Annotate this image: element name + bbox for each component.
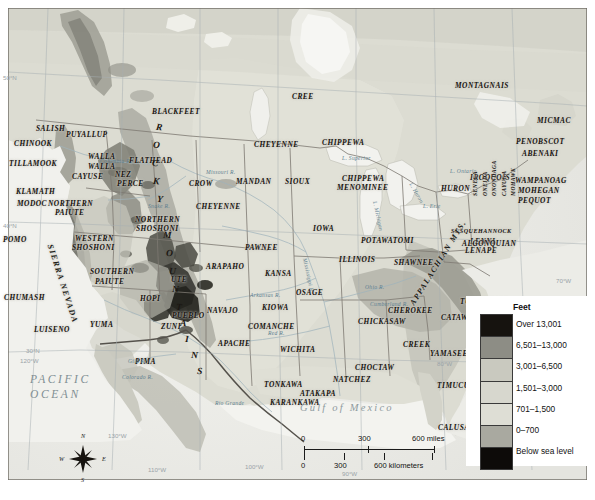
tribe-label: TILLAMOOK <box>9 159 57 168</box>
tribe-label: KLAMATH <box>16 187 55 196</box>
graticule-label: 80°W <box>437 360 452 367</box>
water-feature-label: Columbia R. <box>100 158 132 164</box>
compass-east-label: E <box>102 455 106 462</box>
tribe-label: WAMPANOAG <box>515 176 567 185</box>
scale-tick-km-600 <box>384 453 385 460</box>
elevation-legend: Feet Over 13,0016,501–13,0003,001–6,5001… <box>466 296 595 466</box>
scale-tick-km-0 <box>304 453 305 460</box>
graticule-label: 100°W <box>245 463 264 470</box>
water-feature-label: Ohio R. <box>365 284 385 290</box>
tribe-label: SALISH <box>36 124 65 133</box>
tribe-label: PAWNEE <box>245 243 278 252</box>
tribe-label: CHINOOK <box>14 139 52 148</box>
tribe-label: UTE <box>171 275 187 284</box>
rocky-mountains-letter: N <box>172 284 179 294</box>
rocky-mountains-letter: R <box>155 122 162 133</box>
tribe-label: CREE <box>292 92 314 101</box>
compass-north-label: N <box>81 432 85 439</box>
iroquois-nation-label: CAYUGA <box>501 171 507 196</box>
tribe-label: PENOBSCOT <box>516 137 564 146</box>
legend-swatch <box>481 359 512 381</box>
tribe-label: ILLINOIS <box>339 255 375 264</box>
legend-entry-label: Below sea level <box>516 441 574 462</box>
tribe-label: CHIPPEWA <box>322 138 364 147</box>
tribe-label: LUISENO <box>34 325 70 334</box>
rocky-mountains-letter: M <box>163 230 172 240</box>
ocean-label: PACIFICOCEAN <box>30 372 91 402</box>
scale-label-km-0: 0 <box>301 461 305 470</box>
tribe-label: PEQUOT <box>518 196 551 205</box>
legend-entry-label: 0–700 <box>516 420 574 441</box>
tribe-label: CHUMASH <box>4 293 45 302</box>
scale-bar-line <box>304 446 435 453</box>
rocky-mountains-letter: K <box>152 176 159 187</box>
tribe-label: MODOC <box>17 199 47 208</box>
tribe-label: WESTERN <box>75 234 114 243</box>
legend-entry-label: 701–1,500 <box>516 399 574 420</box>
water-feature-label: Arkansas R. <box>250 292 280 298</box>
iroquois-nation-label: SENECA <box>472 171 478 196</box>
tribe-label: PAIUTE <box>55 208 85 217</box>
tribe-label: CHOCTAW <box>355 363 394 372</box>
tribe-label: KANSA <box>265 269 292 278</box>
tribe-label: PAIUTE <box>95 277 125 286</box>
tribe-label: ZUNI <box>161 322 181 331</box>
tribe-label: MANDAN <box>236 177 271 186</box>
graticule-label: 110°W <box>148 466 166 473</box>
iroquois-nation-label: MOHAWK <box>510 168 516 196</box>
legend-swatch <box>481 426 512 448</box>
rocky-mountains-letter: S <box>197 366 203 376</box>
tribe-label: KIOWA <box>262 303 289 312</box>
graticule-label: 70°W <box>556 277 571 284</box>
compass-west-label: W <box>59 455 64 462</box>
rocky-mountains-letter: N <box>191 350 198 360</box>
tribe-label: POTAWATOMI <box>361 236 414 245</box>
tribe-label: NATCHEZ <box>333 375 371 384</box>
tribe-label: SHOSHONI <box>136 224 179 233</box>
scale-bar: 0 300 600 miles 0 300 600 kilometers <box>300 432 460 472</box>
tribe-label: PERCE <box>117 179 144 188</box>
scale-label-miles-300: 300 <box>358 434 371 443</box>
iroquois-nation-label: ONONDAGA <box>491 160 497 196</box>
tribe-label: NORTHERN <box>48 199 93 208</box>
tribe-label: CROW <box>189 179 213 188</box>
ocean-label-line1: PACIFIC <box>30 372 91 387</box>
gulf-of-mexico-label: Gulf of Mexico <box>300 402 394 413</box>
rocky-mountains-letter: C <box>151 158 158 169</box>
tribe-label: NAVAJO <box>207 306 238 315</box>
tribe-label: WICHITA <box>280 345 316 354</box>
tribe-label: IOWA <box>313 224 334 233</box>
graticule-label: 130°W <box>108 432 127 439</box>
tribe-label: CALUSA <box>438 423 470 432</box>
tribe-label: SIOUX <box>285 177 310 186</box>
water-feature-label: Missouri R. <box>206 169 235 175</box>
scale-label-miles-600: 600 miles <box>412 434 445 443</box>
scale-label-km-600: 600 kilometers <box>374 461 423 470</box>
water-feature-label: Cumberland R. <box>370 301 408 307</box>
tribe-label: FLATHEAD <box>129 156 172 165</box>
tribe-label: PUEBLO <box>172 311 205 320</box>
rocky-mountains-letter: Y <box>156 194 163 205</box>
tribe-label: HOPI <box>140 294 160 303</box>
rocky-mountains-letter: O <box>152 140 160 151</box>
tribe-label: MOHEGAN <box>518 186 560 195</box>
tribe-label: CREEK <box>403 340 430 349</box>
graticule-label: 120°W <box>20 357 39 364</box>
tribe-label: MONTAGNAIS <box>455 81 509 90</box>
water-feature-label: Rio Grande <box>215 400 244 406</box>
scale-tick-km-300 <box>344 453 345 460</box>
tribe-label: NEZ <box>115 170 131 179</box>
legend-swatch <box>481 315 512 337</box>
iroquois-nation-label: ONEIDA <box>482 171 488 196</box>
tribe-label: MICMAC <box>537 116 571 125</box>
water-feature-label: Red R. <box>268 330 285 336</box>
tribe-label: APACHE <box>218 339 250 348</box>
tribe-label: HURON <box>441 184 470 193</box>
compass-south-label: S <box>81 476 84 483</box>
legend-swatch <box>481 448 512 469</box>
tribe-label: CHEYENNE <box>196 202 241 211</box>
legend-swatches <box>480 314 513 470</box>
tribe-label: YUMA <box>90 320 113 329</box>
rocky-mountains-letter: T <box>176 302 182 312</box>
tribe-label: CHEYENNE <box>254 140 299 149</box>
